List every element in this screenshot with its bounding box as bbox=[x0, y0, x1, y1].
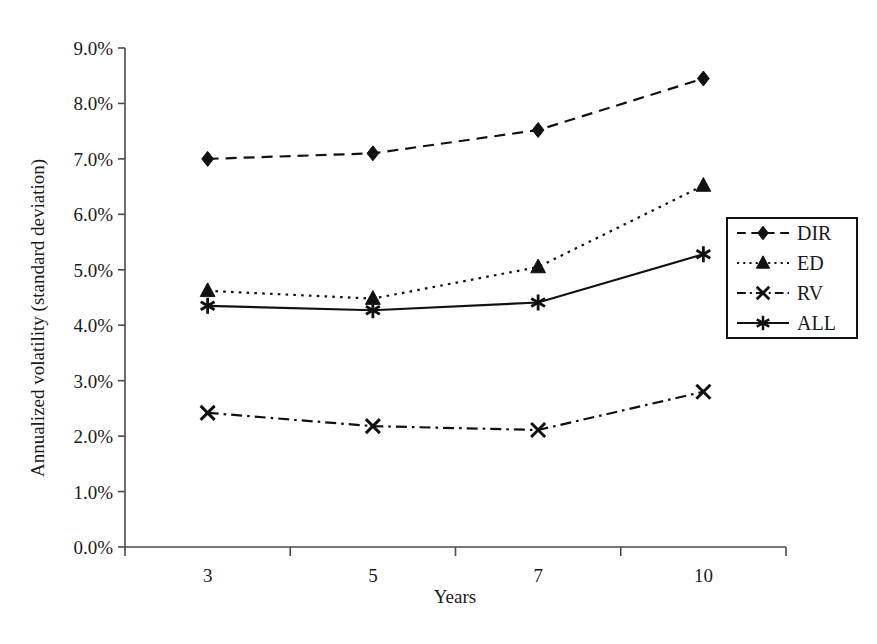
x-axis-tick-labels: 35710 bbox=[203, 565, 713, 586]
y-axis-tick-labels: 0.0%1.0%2.0%3.0%4.0%5.0%6.0%7.0%8.0%9.0% bbox=[73, 38, 113, 558]
marker-diamond bbox=[532, 123, 544, 138]
x-tick-label: 7 bbox=[533, 565, 543, 586]
x-axis-tick-marks bbox=[125, 547, 786, 556]
y-tick-label: 8.0% bbox=[73, 93, 113, 114]
series-line-rv bbox=[208, 392, 704, 430]
marker-triangle bbox=[200, 283, 215, 297]
y-tick-label: 0.0% bbox=[73, 537, 113, 558]
x-tick-label: 10 bbox=[694, 565, 713, 586]
y-tick-label: 9.0% bbox=[73, 38, 113, 59]
y-tick-label: 7.0% bbox=[73, 149, 113, 170]
series-line-dir bbox=[208, 78, 704, 158]
marker-diamond bbox=[367, 146, 379, 161]
y-axis-title-label: Annualized volatility (standard deviatio… bbox=[27, 159, 49, 477]
legend-label-all: ALL bbox=[797, 312, 836, 334]
series-layer bbox=[200, 71, 710, 437]
marker-asterisk bbox=[696, 246, 710, 262]
legend-label-dir: DIR bbox=[797, 222, 832, 244]
legend-label-ed: ED bbox=[797, 252, 824, 274]
x-tick-label: 5 bbox=[368, 565, 378, 586]
y-axis-title: Annualized volatility (standard deviatio… bbox=[27, 159, 49, 477]
y-tick-label: 1.0% bbox=[73, 482, 113, 503]
series-line-ed bbox=[208, 186, 704, 299]
x-axis-title-label: Years bbox=[434, 586, 476, 607]
series-rv bbox=[201, 385, 711, 437]
chart-legend: DIREDRVALL bbox=[727, 218, 857, 338]
y-tick-label: 6.0% bbox=[73, 204, 113, 225]
x-tick-label: 3 bbox=[203, 565, 213, 586]
y-axis-tick-marks bbox=[118, 48, 125, 547]
marker-triangle bbox=[696, 178, 711, 192]
series-ed bbox=[200, 178, 710, 305]
y-tick-label: 2.0% bbox=[73, 426, 113, 447]
legend-label-rv: RV bbox=[797, 282, 824, 304]
marker-diamond bbox=[698, 71, 710, 86]
y-tick-label: 4.0% bbox=[73, 315, 113, 336]
y-tick-label: 3.0% bbox=[73, 371, 113, 392]
chart-container: Annualized volatility (standard deviatio… bbox=[0, 0, 877, 644]
marker-x bbox=[531, 423, 545, 437]
legend-box bbox=[727, 218, 857, 338]
marker-triangle bbox=[531, 259, 546, 273]
marker-diamond bbox=[202, 151, 214, 166]
x-axis-title: Years bbox=[434, 586, 476, 607]
marker-x bbox=[696, 385, 710, 399]
line-chart: Annualized volatility (standard deviatio… bbox=[0, 0, 877, 644]
series-dir bbox=[202, 71, 709, 166]
y-tick-label: 5.0% bbox=[73, 260, 113, 281]
